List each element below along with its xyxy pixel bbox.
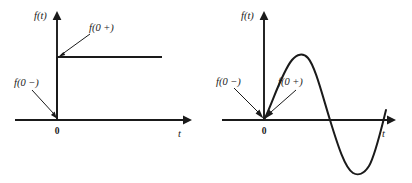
right-origin-label: 0 xyxy=(262,126,267,136)
right-f0minus-leader xyxy=(234,88,258,112)
left-f-axis-label: f(t) xyxy=(34,10,47,22)
left-t-axis-arrowhead xyxy=(183,116,192,125)
left-origin-label: 0 xyxy=(55,126,60,136)
step-function-panel: f(t) f(0 +) f(0 −) 0 t xyxy=(14,10,192,139)
right-f0minus-label-text: f(0 −) xyxy=(216,76,241,88)
right-f-axis-label-text: f(t) xyxy=(241,10,254,22)
left-f-axis-arrowhead xyxy=(53,11,62,20)
right-f0plus-label-text: f(0 +) xyxy=(278,76,303,88)
left-t-axis-label: t xyxy=(178,128,182,139)
figure-container: f(t) f(0 +) f(0 −) 0 t xyxy=(0,0,412,183)
left-f0minus-leader xyxy=(32,90,54,114)
sine-wave-panel: f(t) f(0 −) f(0 +) 0 t xyxy=(216,10,396,174)
right-f0minus-label: f(0 −) xyxy=(216,76,241,88)
right-f0plus-label: f(0 +) xyxy=(278,76,303,88)
right-sine-curve xyxy=(264,55,386,175)
left-f0plus-leader xyxy=(61,34,90,55)
left-f-axis-label-text: f(t) xyxy=(34,10,47,22)
right-f-axis-arrowhead xyxy=(260,11,269,20)
left-f0minus-label: f(0 −) xyxy=(14,77,39,89)
left-f0minus-arrowhead xyxy=(51,112,57,119)
right-t-axis-label: t xyxy=(382,128,386,139)
left-f0plus-label-text: f(0 +) xyxy=(89,22,114,34)
right-f-axis-label: f(t) xyxy=(241,10,254,22)
left-f0minus-label-text: f(0 −) xyxy=(14,77,39,89)
right-t-axis-arrowhead xyxy=(387,116,396,125)
left-f0plus-label: f(0 +) xyxy=(89,22,114,34)
figure-svg: f(t) f(0 +) f(0 −) 0 t xyxy=(0,0,412,183)
